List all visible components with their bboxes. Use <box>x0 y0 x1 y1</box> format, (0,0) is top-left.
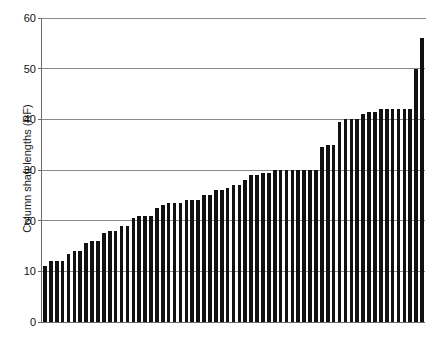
bar <box>196 200 200 322</box>
bar <box>332 145 336 322</box>
bar <box>137 216 141 322</box>
bar <box>273 170 277 322</box>
bar <box>408 109 412 322</box>
bar <box>102 233 106 322</box>
bar <box>285 170 289 322</box>
bar <box>208 195 212 322</box>
bar <box>132 218 136 322</box>
bar <box>302 170 306 322</box>
bar <box>149 216 153 322</box>
bar <box>108 231 112 322</box>
bar <box>397 109 401 322</box>
y-tick-label: 10 <box>24 265 36 277</box>
bar <box>167 203 171 322</box>
bar <box>355 119 359 322</box>
bar <box>96 241 100 322</box>
bar <box>126 226 130 322</box>
y-tick-label: 20 <box>24 215 36 227</box>
bar <box>391 109 395 322</box>
bar <box>78 251 82 322</box>
bar <box>173 203 177 322</box>
bar <box>226 188 230 322</box>
bar <box>385 109 389 322</box>
bar <box>367 112 371 322</box>
bar <box>179 203 183 322</box>
bar <box>261 173 265 322</box>
bar <box>202 195 206 322</box>
bar <box>43 266 47 322</box>
y-tick-label: 30 <box>24 164 36 176</box>
bar <box>279 170 283 322</box>
bar <box>143 216 147 322</box>
y-tick-label: 0 <box>30 316 36 328</box>
bar <box>49 261 53 322</box>
bar <box>308 170 312 322</box>
bar <box>314 170 318 322</box>
bar <box>190 200 194 322</box>
bar <box>73 251 77 322</box>
bar <box>185 200 189 322</box>
bar <box>120 226 124 322</box>
bar <box>291 170 295 322</box>
bar <box>420 38 424 322</box>
plot-area: 0102030405060 <box>41 18 425 323</box>
bar <box>90 241 94 322</box>
bar <box>267 173 271 322</box>
bar <box>344 119 348 322</box>
bar <box>403 109 407 322</box>
bar <box>232 185 236 322</box>
bar <box>296 170 300 322</box>
bar <box>155 208 159 322</box>
bar <box>67 254 71 322</box>
y-tick-label: 60 <box>24 12 36 24</box>
bar <box>373 112 377 322</box>
bar <box>361 114 365 322</box>
bar <box>55 261 59 322</box>
bar <box>414 69 418 322</box>
y-tick-label: 50 <box>24 63 36 75</box>
bar <box>84 243 88 322</box>
bar <box>326 145 330 322</box>
bar <box>320 147 324 322</box>
y-tick-label: 40 <box>24 113 36 125</box>
bar <box>238 185 242 322</box>
bar <box>338 122 342 322</box>
bar <box>220 190 224 322</box>
bar <box>255 175 259 322</box>
bar <box>61 261 65 322</box>
bars-group <box>42 18 425 322</box>
bar <box>114 231 118 322</box>
bar-chart: Column shaft lengths (RF) 0102030405060 <box>0 0 440 337</box>
bar <box>161 205 165 322</box>
bar <box>243 180 247 322</box>
bar <box>350 119 354 322</box>
bar <box>214 190 218 322</box>
bar <box>379 109 383 322</box>
bar <box>249 175 253 322</box>
